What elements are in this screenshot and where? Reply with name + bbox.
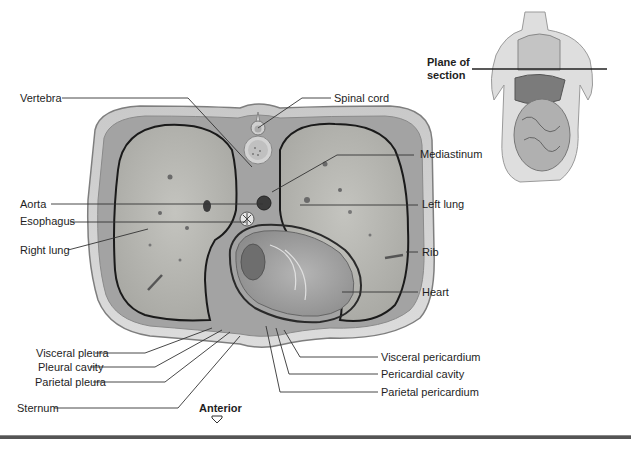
label-aorta: Aorta — [20, 198, 46, 210]
label-esophagus: Esophagus — [20, 215, 75, 227]
inset-body-figure — [472, 12, 607, 182]
label-visceral-pleura: Visceral pleura — [36, 347, 109, 359]
label-heart: Heart — [422, 286, 449, 298]
label-right-lung: Right lung — [20, 244, 70, 256]
arrow-down-outline-icon — [212, 416, 222, 423]
label-parietal-pericardium: Parietal pericardium — [381, 386, 479, 398]
label-pericardial-cavity: Pericardial cavity — [381, 368, 464, 380]
label-spinal-cord: Spinal cord — [334, 92, 389, 104]
label-rib: Rib — [422, 246, 439, 258]
label-mediastinum: Mediastinum — [420, 148, 482, 160]
spinal-cord — [251, 121, 265, 135]
label-parietal-pleura: Parietal pleura — [35, 376, 106, 388]
aorta — [257, 196, 271, 210]
label-visceral-pericardium: Visceral pericardium — [381, 351, 480, 363]
label-plane-of-section-line2: section — [427, 69, 466, 81]
label-sternum: Sternum — [17, 402, 59, 414]
label-left-lung: Left lung — [422, 198, 464, 210]
label-vertebra: Vertebra — [20, 92, 62, 104]
footer-divider — [0, 435, 631, 439]
label-plane-of-section-line1: Plane of — [427, 56, 470, 68]
label-anterior: Anterior — [199, 402, 242, 414]
label-pleural-cavity: Pleural cavity — [38, 361, 103, 373]
